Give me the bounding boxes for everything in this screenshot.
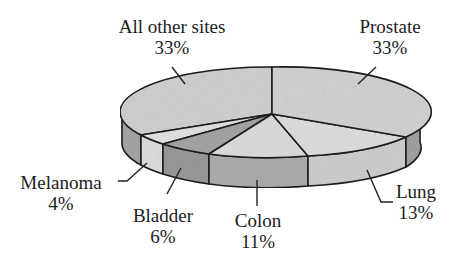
side-colon — [209, 154, 308, 188]
label-name: Colon — [235, 210, 281, 231]
label-prostate: Prostate 33% — [340, 16, 440, 58]
label-name: Lung — [396, 181, 436, 202]
label-pct: 13% — [386, 202, 446, 223]
label-colon: Colon 11% — [218, 210, 298, 252]
label-name: All other sites — [119, 16, 226, 37]
label-pct: 33% — [340, 37, 440, 58]
label-pct: 4% — [6, 193, 116, 214]
label-name: Bladder — [133, 205, 193, 226]
label-pct: 11% — [218, 231, 298, 252]
label-melanoma: Melanoma 4% — [6, 172, 116, 214]
label-name: Prostate — [359, 16, 420, 37]
label-name: Melanoma — [20, 172, 101, 193]
label-pct: 6% — [118, 226, 208, 247]
pie-chart: All other sites 33% Prostate 33% Melanom… — [0, 0, 453, 261]
label-lung: Lung 13% — [386, 181, 446, 223]
label-pct: 33% — [92, 37, 252, 58]
label-bladder: Bladder 6% — [118, 205, 208, 247]
label-all-other-sites: All other sites 33% — [92, 16, 252, 58]
